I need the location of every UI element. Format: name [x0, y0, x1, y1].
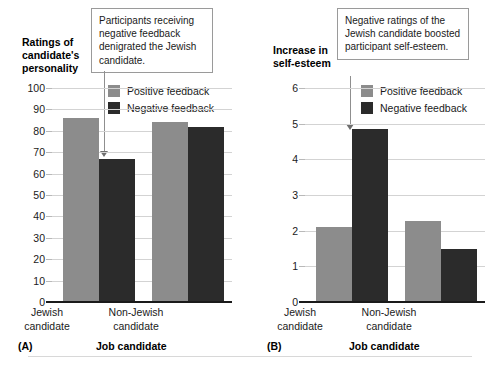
bar-a-jewish-negative [99, 159, 135, 302]
panel-letter-a: (A) [18, 340, 33, 352]
y-tick-label: 80 [33, 126, 45, 137]
bar-b-nonjewish-negative [441, 249, 477, 302]
plot-area-b: 6 5 4 3 2 1 0 [305, 88, 485, 302]
y-tick-label: 60 [33, 168, 45, 179]
bar-a-nonjewish-negative [188, 127, 224, 302]
bar-b-jewish-negative [352, 129, 388, 302]
x-axis-line-b [299, 301, 485, 303]
x-axis-title-b: Job candidate [349, 340, 420, 352]
bar-b-jewish-positive [316, 227, 352, 302]
plot-area-a: 100 90 80 70 60 50 40 30 20 10 0 [52, 88, 232, 302]
y-tick-label: 10 [33, 275, 45, 286]
figure-container: Ratings of candidate's personality Posit… [0, 0, 497, 374]
y-tick-label: 50 [33, 190, 45, 201]
y-tick-label: 2 [292, 225, 298, 236]
y-tick-label: 100 [27, 83, 45, 94]
y-tick-label: 40 [33, 211, 45, 222]
chart-panel-b: Increase in self-esteem Positive feedbac… [249, 0, 497, 352]
y-tick-label: 4 [292, 154, 298, 165]
x-category-label-a-2: Non-Jewish candidate [76, 306, 196, 333]
y-tick-label: 5 [292, 118, 298, 129]
annotation-callout-a: Participants receiving negative feedback… [91, 8, 213, 73]
y-tick-label: 20 [33, 254, 45, 265]
y-axis-title-b: Increase in self-esteem [273, 44, 331, 70]
bar-a-nonjewish-positive [152, 122, 188, 302]
chart-panel-a: Ratings of candidate's personality Posit… [0, 0, 248, 352]
y-axis-title-a: Ratings of candidate's personality [22, 36, 79, 75]
bar-a-jewish-positive [63, 118, 99, 302]
x-axis-line-a [46, 301, 232, 303]
y-tick-label: 1 [292, 261, 298, 272]
x-category-label-b-2: Non-Jewish candidate [329, 306, 449, 333]
bar-b-nonjewish-positive [405, 221, 441, 302]
panel-letter-b: (B) [267, 340, 282, 352]
bars-a [52, 88, 232, 302]
bars-b [305, 88, 485, 302]
y-tick-label: 30 [33, 233, 45, 244]
y-tick-label: 3 [292, 190, 298, 201]
x-axis-title-a: Job candidate [96, 340, 167, 352]
y-tick-label: 90 [33, 104, 45, 115]
figure-bottom-rule [28, 356, 472, 357]
y-tick-label: 70 [33, 147, 45, 158]
annotation-callout-b: Negative ratings of the Jewish candidate… [337, 8, 469, 60]
y-tick-label: 6 [292, 83, 298, 94]
